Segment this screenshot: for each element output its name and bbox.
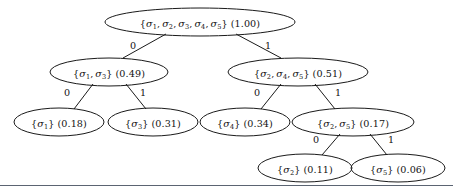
tree-node-outline — [14, 108, 104, 136]
tree-edge — [322, 134, 340, 155]
tree-node-outline — [200, 108, 290, 136]
edge-bit-label: 1 — [140, 87, 146, 98]
edge-bit-label: 0 — [130, 40, 136, 51]
tree-node-outline — [292, 108, 414, 136]
tree-edge — [74, 84, 93, 109]
huffman-tree-figure: {σ1, σ2, σ3, σ4, σ5}(1.00){σ1, σ3}(0.49)… — [0, 0, 453, 190]
tree-edge — [315, 84, 335, 109]
tree-node-outline — [50, 58, 168, 86]
edge-bit-label: 0 — [313, 134, 319, 145]
tree-node-outline — [228, 58, 368, 86]
tree-node-outline — [351, 154, 445, 182]
tree-edge — [261, 84, 281, 109]
edge-bit-label: 1 — [335, 87, 341, 98]
node-ellipses-group — [14, 8, 445, 182]
bottom-divider — [0, 185, 453, 186]
tree-node-outline — [258, 154, 352, 182]
tree-edge — [236, 34, 281, 58]
tree-node-outline — [105, 8, 295, 36]
edge-bit-label: 1 — [265, 40, 271, 51]
edge-bit-label: 0 — [64, 87, 70, 98]
edge-bit-label: 0 — [254, 87, 260, 98]
edge-bit-label: 1 — [388, 134, 394, 145]
tree-edge — [370, 134, 387, 155]
tree-node-outline — [108, 108, 198, 136]
